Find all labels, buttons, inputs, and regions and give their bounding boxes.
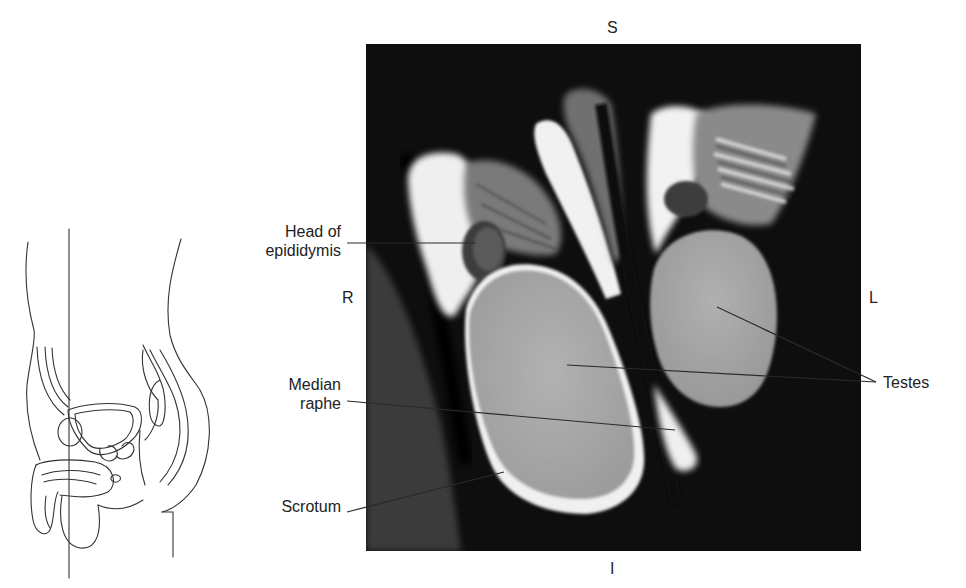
label-head-of-epididymis-line2: epididymis xyxy=(265,241,341,260)
sagittal-locator-diagram xyxy=(0,200,250,588)
label-testes: Testes xyxy=(883,373,929,392)
label-head-of-epididymis-line1: Head of xyxy=(265,222,341,241)
label-head-of-epididymis: Head of epididymis xyxy=(265,222,341,260)
coronal-mri-image xyxy=(366,44,861,551)
label-median-raphe-line2: raphe xyxy=(289,394,341,413)
orientation-superior: S xyxy=(607,19,618,37)
label-median-raphe: Median raphe xyxy=(289,375,341,413)
orientation-left: L xyxy=(869,289,878,307)
orientation-right: R xyxy=(342,289,354,307)
orientation-inferior: I xyxy=(610,560,614,578)
label-median-raphe-line1: Median xyxy=(289,375,341,394)
label-scrotum: Scrotum xyxy=(281,497,341,516)
